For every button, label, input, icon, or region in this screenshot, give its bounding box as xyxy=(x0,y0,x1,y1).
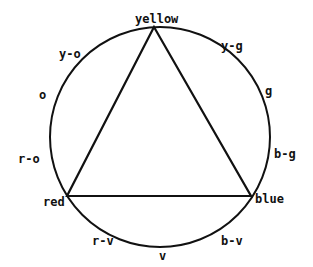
label-y-o: y-o xyxy=(59,47,81,61)
label-b-v: b-v xyxy=(221,234,243,248)
label-v: v xyxy=(159,249,166,263)
label-r-v: r-v xyxy=(92,234,114,248)
label-red: red xyxy=(43,195,65,209)
label-y-g: y-g xyxy=(221,39,243,53)
label-b-g: b-g xyxy=(274,147,296,161)
label-r-o: r-o xyxy=(18,152,40,166)
color-wheel-diagram: yellow red blue y-o o r-o y-g g b-g r-v … xyxy=(0,0,313,267)
color-circle xyxy=(50,27,270,247)
label-g: g xyxy=(265,84,272,98)
label-blue: blue xyxy=(255,192,284,206)
label-yellow: yellow xyxy=(135,12,179,26)
label-o: o xyxy=(39,88,46,102)
